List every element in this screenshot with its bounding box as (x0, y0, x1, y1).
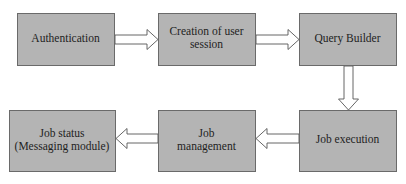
arrow-query-builder-to-job-execution (339, 66, 359, 110)
node-label-line: Job (199, 127, 215, 139)
node-query-builder: Query Builder (300, 14, 397, 66)
arrow-job-execution-to-job-management (256, 129, 299, 149)
node-label-line: Job execution (316, 133, 380, 145)
node-label-line: Query Builder (314, 32, 380, 45)
node-job-execution: Job execution (300, 111, 397, 172)
flowchart-diagram: AuthenticationCreation of usersessionQue… (0, 0, 406, 184)
nodes-layer: AuthenticationCreation of usersessionQue… (10, 14, 397, 172)
node-label-line: Creation of user (169, 25, 243, 37)
node-label-line: Job status (39, 127, 85, 139)
node-label-line: (Messaging module) (15, 140, 110, 153)
node-creation-of-user-session: Creation of usersession (159, 14, 256, 66)
node-authentication: Authentication (18, 14, 115, 66)
node-label-line: Authentication (31, 32, 100, 44)
node-job-status: Job status(Messaging module) (10, 111, 116, 172)
node-job-management: Jobmanagement (159, 111, 256, 172)
arrow-authentication-to-creation-of-user-session (115, 30, 158, 50)
node-label-line: session (190, 38, 223, 50)
node-label-line: management (177, 140, 237, 153)
arrow-creation-of-user-session-to-query-builder (256, 30, 299, 50)
arrow-job-management-to-job-status (116, 129, 158, 149)
